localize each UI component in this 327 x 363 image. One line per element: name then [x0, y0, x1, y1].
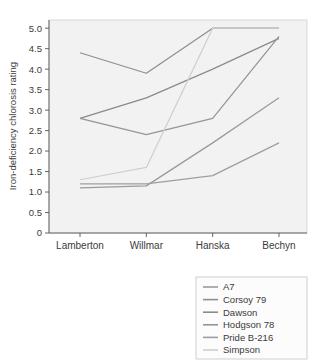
y-tick-label: 1.0: [29, 186, 42, 197]
x-category-label: Bechyn: [262, 240, 295, 251]
y-tick-label: 3.0: [29, 105, 42, 116]
legend-label-pride-b-216: Pride B-216: [223, 332, 273, 343]
y-tick-label: 4.5: [29, 43, 42, 54]
x-category-label: Willmar: [130, 240, 164, 251]
legend-label-a7: A7: [223, 281, 235, 292]
y-tick-label: 0: [37, 227, 42, 238]
y-tick-label: 1.5: [29, 166, 42, 177]
y-tick-label: 0.5: [29, 207, 42, 218]
x-category-label: Lamberton: [56, 240, 104, 251]
y-tick-label: 3.5: [29, 84, 42, 95]
y-tick-label: 4.0: [29, 64, 42, 75]
y-tick-label: 2.0: [29, 145, 42, 156]
iron-deficiency-chlorosis-line-chart: 00.51.01.52.02.53.03.54.04.55.0 Lamberto…: [0, 0, 327, 363]
y-tick-label: 5.0: [29, 23, 42, 34]
legend-label-corsoy-79: Corsoy 79: [223, 294, 266, 305]
y-axis-title: Iron-deficiency chlorosis rating: [7, 62, 18, 190]
y-tick-label: 2.5: [29, 125, 42, 136]
legend-label-dawson: Dawson: [223, 307, 257, 318]
legend-label-hodgson-78: Hodgson 78: [223, 319, 274, 330]
x-category-label: Hanska: [196, 240, 230, 251]
legend-label-simpson: Simpson: [223, 344, 260, 355]
